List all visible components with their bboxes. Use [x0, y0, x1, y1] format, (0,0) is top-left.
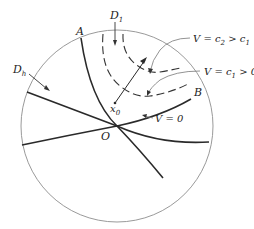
label-x0: x0 [110, 103, 121, 117]
Dh-arrow-icon [44, 85, 50, 91]
diagram-canvas: A B O D1 Dh x0 V = c2 > c1 V = c1 > 0 V … [0, 0, 254, 229]
label-V-c2: V = c2 > c1 [193, 33, 250, 47]
label-B: B [193, 86, 202, 99]
label-D1: D1 [109, 9, 123, 24]
label-Dh: Dh [12, 63, 26, 78]
trajectory-line [115, 60, 145, 103]
leader-V0-arrow-icon [142, 114, 147, 118]
leader-c2 [150, 38, 190, 72]
trajectory-arrow-icon [140, 57, 147, 64]
label-V-c1: V = c1 > 0 [204, 66, 254, 80]
label-O: O [101, 130, 110, 143]
leader-c1-arrow-icon [147, 90, 151, 96]
D1-arrow-icon [113, 40, 117, 46]
label-V-zero: V = 0 [155, 113, 184, 124]
label-A: A [75, 25, 84, 38]
curve-A [81, 38, 163, 178]
